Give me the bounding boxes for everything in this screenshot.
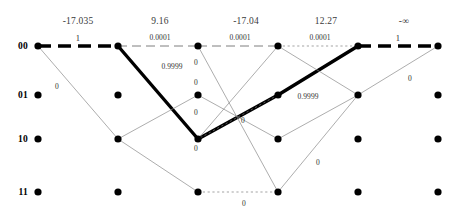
trellis-node <box>34 91 41 98</box>
state-label-01: 01 <box>6 90 28 100</box>
trellis-node <box>354 135 361 142</box>
edge-label: 0 <box>194 78 198 87</box>
column-metric: -∞ <box>399 16 409 26</box>
trellis-edge <box>198 46 278 139</box>
trellis-node <box>274 91 281 98</box>
column-metric: 9.16 <box>151 16 168 26</box>
trellis-node <box>354 91 361 98</box>
state-label-10: 10 <box>6 134 28 144</box>
edge-label: 0 <box>241 116 245 125</box>
edge-label: 0.0001 <box>229 33 250 42</box>
edge-label: 0 <box>194 58 198 67</box>
trellis-node <box>434 42 441 49</box>
state-label-11: 11 <box>6 187 28 197</box>
edge-label: 1 <box>396 33 400 43</box>
trellis-edge <box>118 95 198 139</box>
edge-label: 0 <box>408 74 412 83</box>
trellis-node <box>114 188 121 195</box>
trellis-node <box>274 188 281 195</box>
edge-label: 0.0001 <box>309 33 330 42</box>
trellis-node <box>434 135 441 142</box>
trellis-node <box>34 188 41 195</box>
trellis-node <box>354 42 361 49</box>
edge-label: 1 <box>76 33 80 43</box>
edge-label: 0.9999 <box>161 62 182 71</box>
trellis-node <box>34 135 41 142</box>
trellis-diagram: -17.0359.16-17.0412.27-∞ 00011011 110.00… <box>0 0 458 216</box>
trellis-node <box>194 188 201 195</box>
column-metric: 12.27 <box>315 16 337 26</box>
trellis-node <box>194 135 201 142</box>
column-metric: -17.035 <box>63 16 94 26</box>
trellis-node <box>354 188 361 195</box>
trellis-edge <box>118 139 198 192</box>
edge-label: 0 <box>194 144 198 153</box>
trellis-edge <box>38 46 118 139</box>
trellis-node <box>274 42 281 49</box>
trellis-edge <box>278 95 358 139</box>
trellis-node <box>114 135 121 142</box>
trellis-edge <box>118 46 198 139</box>
trellis-edge <box>198 46 278 192</box>
edge-label: 0 <box>242 199 246 208</box>
trellis-node <box>434 188 441 195</box>
edge-label: 0.0001 <box>149 33 170 42</box>
column-metric: -17.04 <box>233 16 259 26</box>
edge-label: 0 <box>55 82 59 91</box>
edge-label: 0 <box>316 158 320 167</box>
trellis-node <box>434 91 441 98</box>
trellis-node <box>114 91 121 98</box>
trellis-edge <box>278 95 358 192</box>
trellis-node <box>194 42 201 49</box>
state-label-00: 00 <box>6 41 28 51</box>
trellis-node <box>114 42 121 49</box>
edges-layer <box>38 46 438 192</box>
trellis-node <box>194 91 201 98</box>
edge-label: 0.9999 <box>297 92 318 101</box>
trellis-node <box>274 135 281 142</box>
trellis-node <box>34 42 41 49</box>
edge-label: 0 <box>194 108 198 117</box>
trellis-edge <box>358 46 438 95</box>
